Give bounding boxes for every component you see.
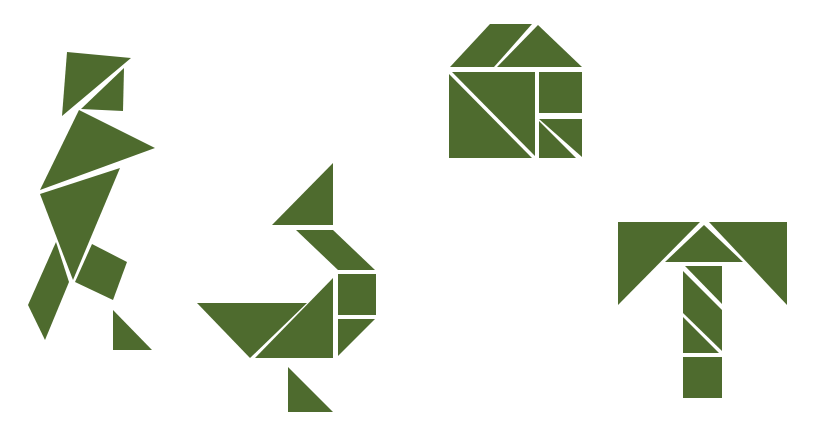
letter-t-figure [618,222,787,398]
bird-small-triangle-piece [338,319,375,356]
tangram-canvas [0,0,817,440]
walking-person-figure [28,52,155,350]
walking-person-small-triangle-piece [113,310,152,350]
tangram-diagram [0,0,817,440]
bird-figure [197,163,376,412]
house-square-piece [539,72,582,113]
bird-square-piece [338,274,376,315]
bird-small-triangle-piece [288,367,333,412]
letter-t-square-piece [683,357,722,398]
house-figure [449,24,582,158]
bird-medium-triangle-piece [272,163,333,225]
walking-person-parallelogram-piece [28,242,69,340]
bird-parallelogram-piece [296,230,375,270]
